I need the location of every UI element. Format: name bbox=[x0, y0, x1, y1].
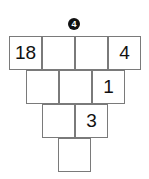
pyramid-cell-r1-c2[interactable]: 1 bbox=[92, 70, 125, 104]
pyramid-cell-r0-c1[interactable] bbox=[42, 36, 75, 70]
pyramid-cell-r3-c0[interactable] bbox=[58, 138, 91, 172]
pyramid-cell-r0-c0[interactable]: 18 bbox=[9, 36, 42, 70]
pyramid-cell-r1-c1[interactable] bbox=[59, 70, 92, 104]
pyramid-cell-r2-c1[interactable]: 3 bbox=[75, 104, 108, 138]
pyramid-cell-r0-c2[interactable] bbox=[75, 36, 108, 70]
puzzle-number-badge: 4 bbox=[68, 18, 80, 30]
pyramid-cell-r0-c3[interactable]: 4 bbox=[108, 36, 141, 70]
pyramid-cell-r2-c0[interactable] bbox=[42, 104, 75, 138]
pyramid-cell-r1-c0[interactable] bbox=[26, 70, 59, 104]
